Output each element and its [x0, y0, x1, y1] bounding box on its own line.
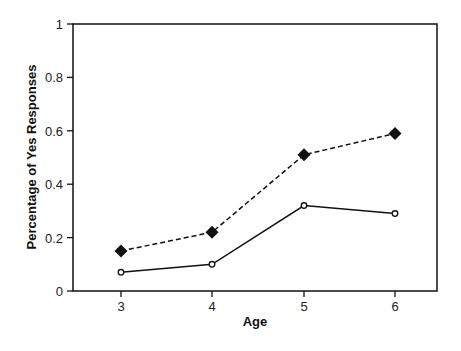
series-line: [121, 206, 395, 273]
x-axis-title: Age: [243, 314, 268, 329]
y-axis: 00.20.40.60.81: [45, 17, 73, 299]
y-tick-label: 0.2: [45, 231, 63, 246]
circle-marker: [392, 211, 398, 217]
y-tick-label: 0.6: [45, 124, 63, 139]
circle-marker: [209, 262, 215, 268]
x-tick-label: 4: [208, 299, 215, 314]
series-solid-circles: [118, 203, 398, 275]
y-tick-label: 0.4: [45, 177, 63, 192]
x-ticks: 3456: [117, 291, 398, 314]
y-ticks: 00.20.40.60.81: [45, 17, 73, 299]
diamond-marker: [115, 244, 128, 257]
plot-frame: [73, 24, 437, 291]
series-line: [121, 133, 395, 250]
diamond-marker: [389, 127, 402, 140]
y-tick-label: 0.8: [45, 70, 63, 85]
circle-marker: [301, 203, 307, 209]
x-axis: 3456: [117, 291, 398, 314]
x-tick-label: 5: [300, 299, 307, 314]
circle-marker: [118, 270, 124, 276]
series-lines: [115, 127, 402, 275]
y-tick-label: 1: [56, 17, 63, 32]
y-axis-title: Percentage of Yes Responses: [24, 65, 39, 250]
series-dashed-diamonds: [115, 127, 402, 257]
y-tick-label: 0: [56, 284, 63, 299]
x-tick-label: 6: [391, 299, 398, 314]
line-chart: 00.20.40.60.81 3456 Age Percentage of Ye…: [0, 0, 461, 351]
diamond-marker: [298, 148, 311, 161]
x-tick-label: 3: [117, 299, 124, 314]
